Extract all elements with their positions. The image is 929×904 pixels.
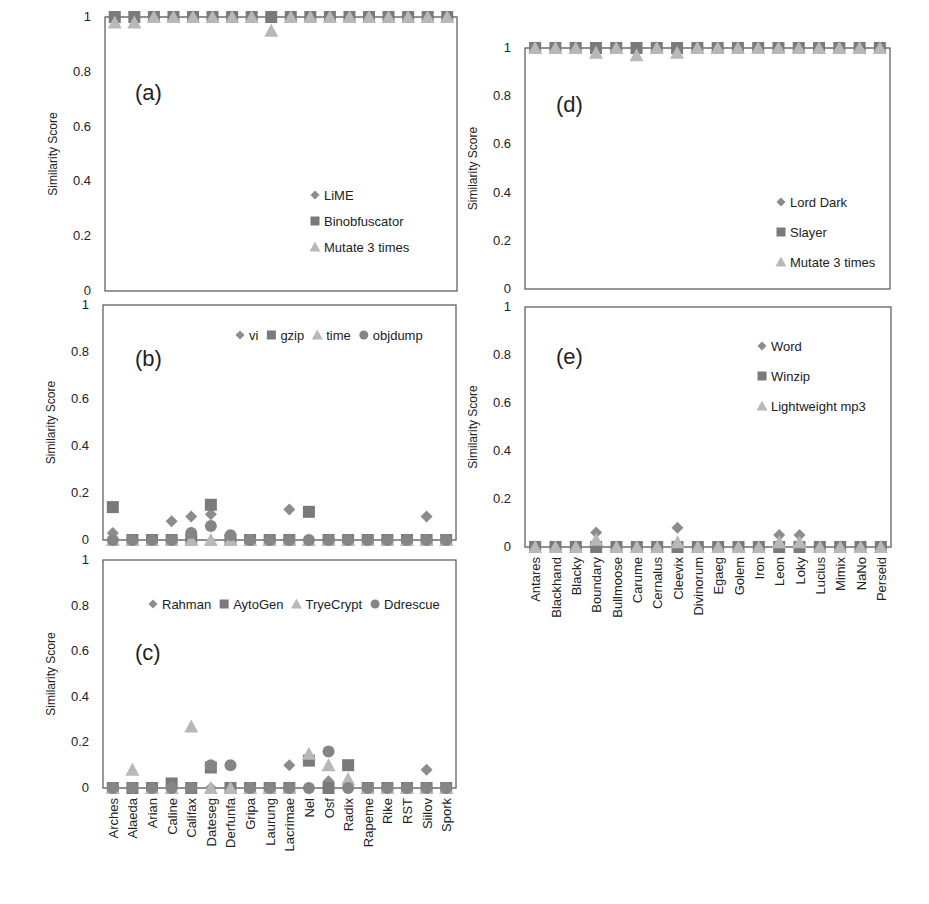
chart-panel-a: 00.20.40.60.81Similarity Score(a)LiMEBin…: [46, 9, 457, 298]
data-point: [264, 24, 278, 37]
data-point: [421, 764, 433, 776]
x-tick-label: Rapeme: [361, 798, 376, 847]
x-tick-label: Gripa: [243, 797, 258, 830]
series-word: [529, 522, 887, 553]
y-tick-label: 0: [82, 532, 89, 547]
data-point: [185, 527, 197, 539]
legend: RahmanAytoGenTryeCryptDdrescue: [149, 597, 440, 612]
data-point: [342, 534, 354, 546]
x-tick-label: Derfunfa: [223, 797, 238, 848]
data-point: [264, 782, 276, 794]
series-ddrescue: [107, 746, 452, 794]
y-tick-label: 0.6: [73, 119, 91, 134]
x-tick-label: Dateseg: [204, 798, 219, 846]
square-legend-icon: [220, 600, 229, 609]
square-legend-icon: [267, 331, 276, 340]
y-tick-label: 0.2: [73, 228, 91, 243]
data-point: [283, 503, 295, 515]
y-axis-label: Similarity Score: [466, 127, 480, 211]
x-tick-label: Antares: [528, 557, 543, 602]
legend-label: Winzip: [771, 369, 810, 384]
diamond-legend-icon: [236, 331, 245, 340]
y-tick-label: 0.6: [493, 395, 511, 410]
data-point: [185, 782, 197, 794]
data-point: [323, 782, 335, 794]
figure-canvas: 00.20.40.60.81Similarity Score(a)LiMEBin…: [0, 0, 929, 904]
x-tick-label: Cleevix: [671, 557, 686, 600]
data-point: [166, 515, 178, 527]
y-tick-label: 0.2: [71, 734, 89, 749]
series-objdump: [107, 520, 452, 546]
triangle-legend-icon: [757, 401, 768, 411]
x-tick-label: Rike: [380, 798, 395, 824]
circle-legend-icon: [371, 600, 380, 609]
plot-area: [525, 307, 891, 547]
triangle-legend-icon: [312, 330, 323, 340]
x-tick-label: Laurung: [263, 798, 278, 846]
legend-label: time: [326, 328, 351, 343]
data-point: [224, 529, 236, 541]
x-tick-label: Cernalus: [650, 557, 665, 610]
data-point: [107, 501, 119, 513]
series-lightweight-mp3: [528, 533, 888, 553]
data-point: [323, 746, 335, 758]
data-point: [323, 534, 335, 546]
panel-label: (a): [135, 80, 162, 105]
y-tick-label: 0.6: [493, 136, 511, 151]
y-tick-label: 0.2: [71, 485, 89, 500]
x-tick-label: Egaeg: [711, 557, 726, 595]
legend-label: Lord Dark: [790, 195, 848, 210]
square-legend-icon: [777, 228, 786, 237]
data-point: [107, 534, 119, 546]
x-tick-label: Leon: [772, 557, 787, 586]
triangle-legend-icon: [310, 242, 321, 252]
legend-label: gzip: [280, 328, 304, 343]
x-tick-label: Nel: [302, 798, 317, 818]
data-point: [381, 782, 393, 794]
x-tick-label: Caline: [165, 798, 180, 835]
y-tick-label: 1: [504, 40, 511, 55]
data-point: [342, 759, 354, 771]
x-tick-label: Bullmoose: [610, 557, 625, 618]
square-legend-icon: [758, 372, 767, 381]
square-legend-icon: [311, 217, 320, 226]
x-tick-label: Lucius: [813, 557, 828, 595]
legend-label: objdump: [373, 328, 423, 343]
x-tick-label: Califax: [184, 798, 199, 838]
data-point: [185, 511, 197, 523]
data-point: [126, 782, 138, 794]
x-tick-label: Perseid: [874, 557, 889, 601]
legend-label: Mutate 3 times: [324, 240, 410, 255]
x-tick-label: Loky: [793, 557, 808, 585]
y-tick-label: 1: [82, 552, 89, 567]
data-point: [401, 782, 413, 794]
x-tick-label: Boundary: [589, 557, 604, 613]
legend-label: TryeCrypt: [306, 597, 363, 612]
x-tick-label: Osf: [322, 798, 337, 819]
y-tick-label: 0.6: [71, 391, 89, 406]
data-point: [283, 534, 295, 546]
y-tick-label: 0.4: [71, 438, 89, 453]
x-tick-label: Lacrimae: [282, 798, 297, 851]
data-point: [125, 763, 139, 776]
x-tick-label: Arian: [145, 798, 160, 828]
data-point: [440, 534, 452, 546]
data-point: [184, 719, 198, 732]
y-tick-label: 0.4: [493, 443, 511, 458]
y-tick-label: 0: [84, 283, 91, 298]
x-tick-label: Blacky: [569, 557, 584, 596]
series-gzip: [107, 499, 452, 546]
y-axis-label: Similarity Score: [44, 632, 58, 716]
legend: LiMEBinobfuscatorMutate 3 times: [310, 188, 410, 255]
data-point: [303, 506, 315, 518]
data-point: [205, 759, 217, 771]
x-tick-label: Iron: [752, 557, 767, 579]
legend-label: Rahman: [162, 597, 211, 612]
x-tick-label: NaNo: [854, 557, 869, 590]
x-tick-label: Mimix: [833, 557, 848, 591]
x-tick-label: Alaeda: [125, 797, 140, 838]
diamond-legend-icon: [758, 342, 767, 351]
data-point: [205, 520, 217, 532]
data-point: [421, 511, 433, 523]
panel-label: (b): [135, 346, 162, 371]
